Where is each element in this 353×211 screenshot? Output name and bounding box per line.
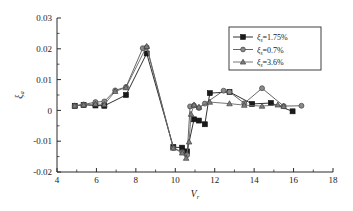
x-tick-label: 16 bbox=[289, 175, 299, 185]
data-point-circle bbox=[299, 103, 304, 108]
data-point-square bbox=[202, 122, 207, 127]
x-tick-label: 10 bbox=[171, 175, 181, 185]
data-point-triangle bbox=[188, 111, 194, 116]
legend-label-0: ξs=1.75% bbox=[257, 33, 288, 43]
legend-label-value-1: =0.7% bbox=[263, 46, 285, 55]
data-point-circle bbox=[221, 88, 226, 93]
data-point-square bbox=[241, 35, 246, 40]
data-point-triangle bbox=[186, 139, 192, 144]
x-tick-label: 4 bbox=[55, 175, 60, 185]
y-tick-label: -0.02 bbox=[33, 167, 52, 177]
data-point-circle bbox=[227, 89, 232, 94]
x-tick-label: 14 bbox=[250, 175, 260, 185]
data-point-circle bbox=[241, 47, 246, 52]
data-point-square bbox=[124, 93, 129, 98]
data-point-circle bbox=[260, 86, 265, 91]
y-axis-title-subscript: a bbox=[18, 91, 25, 94]
legend: ξs=1.75%ξs=0.7%ξs=3.6% bbox=[229, 27, 321, 70]
x-axis-title-subscript: r bbox=[197, 193, 200, 200]
data-point-square bbox=[268, 101, 273, 106]
y-tick-label: 0.02 bbox=[36, 44, 52, 54]
legend-label-value-2: =3.6% bbox=[263, 58, 285, 67]
y-tick-label: 0 bbox=[48, 106, 53, 116]
y-tick-label: 0.03 bbox=[36, 13, 52, 23]
y-axis-title: ξa bbox=[14, 91, 25, 98]
chart-canvas: 4681012141618-0.02-0.0100.010.020.03Vrξa… bbox=[0, 0, 353, 211]
y-axis-title-group: ξa bbox=[14, 91, 25, 98]
x-axis-title: Vr bbox=[191, 189, 200, 200]
x-tick-label: 18 bbox=[329, 175, 339, 185]
x-tick-label: 8 bbox=[134, 175, 139, 185]
data-point-square bbox=[192, 117, 197, 122]
chart-figure: 4681012141618-0.02-0.0100.010.020.03Vrξa… bbox=[0, 0, 353, 211]
data-point-square bbox=[196, 118, 201, 123]
legend-label-value-0: =1.75% bbox=[263, 33, 289, 42]
data-point-square bbox=[290, 109, 295, 114]
x-tick-label: 6 bbox=[94, 175, 99, 185]
x-tick-label: 12 bbox=[210, 175, 219, 185]
y-tick-label: 0.01 bbox=[36, 75, 52, 85]
data-point-square bbox=[207, 91, 212, 96]
y-tick-label: -0.01 bbox=[33, 136, 52, 146]
